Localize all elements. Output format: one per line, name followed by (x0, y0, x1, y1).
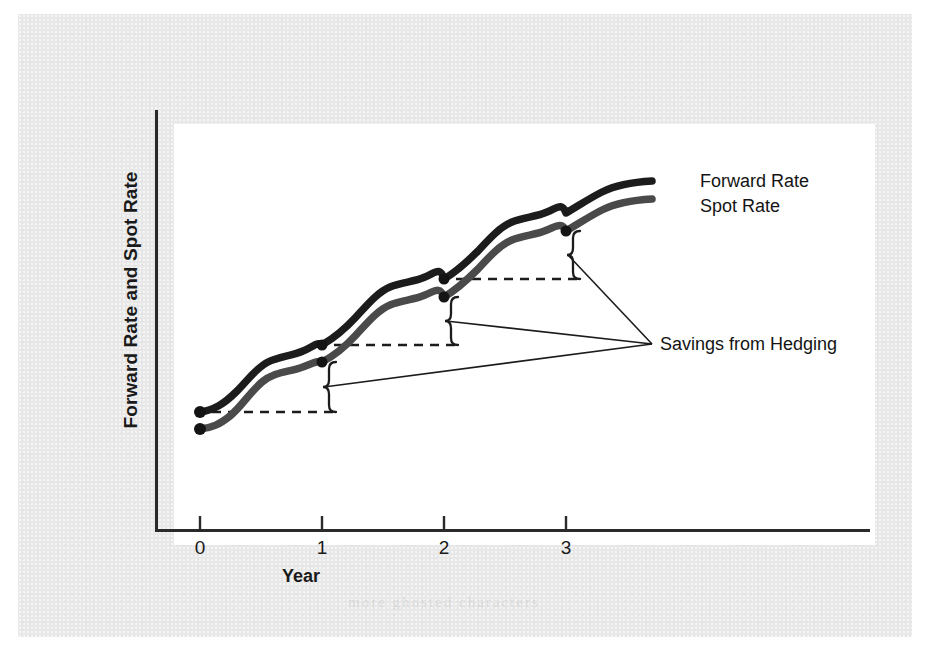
spot-marker-year-2 (439, 292, 450, 303)
forward-marker-year-0 (194, 406, 206, 418)
pointer-from-year-3-brace (568, 255, 652, 344)
forward-marker-year-1 (317, 340, 328, 351)
forward-marker-year-2 (439, 274, 450, 285)
spot-marker-year-0 (194, 423, 206, 435)
figure-root: the text behind the page faint reverse p… (0, 0, 930, 650)
spot-marker-year-1 (317, 357, 328, 368)
axis-lines (155, 110, 870, 531)
dashed-leader-lines (212, 279, 580, 412)
spot-rate-markers (194, 226, 572, 436)
chart-vector-overlay (0, 0, 930, 650)
spot-marker-year-3 (561, 226, 572, 237)
x-axis-ticks (200, 516, 566, 530)
pointer-from-year-1-brace (324, 344, 652, 387)
spot-rate-curve (200, 199, 652, 429)
pointer-from-year-2-brace (446, 321, 652, 344)
